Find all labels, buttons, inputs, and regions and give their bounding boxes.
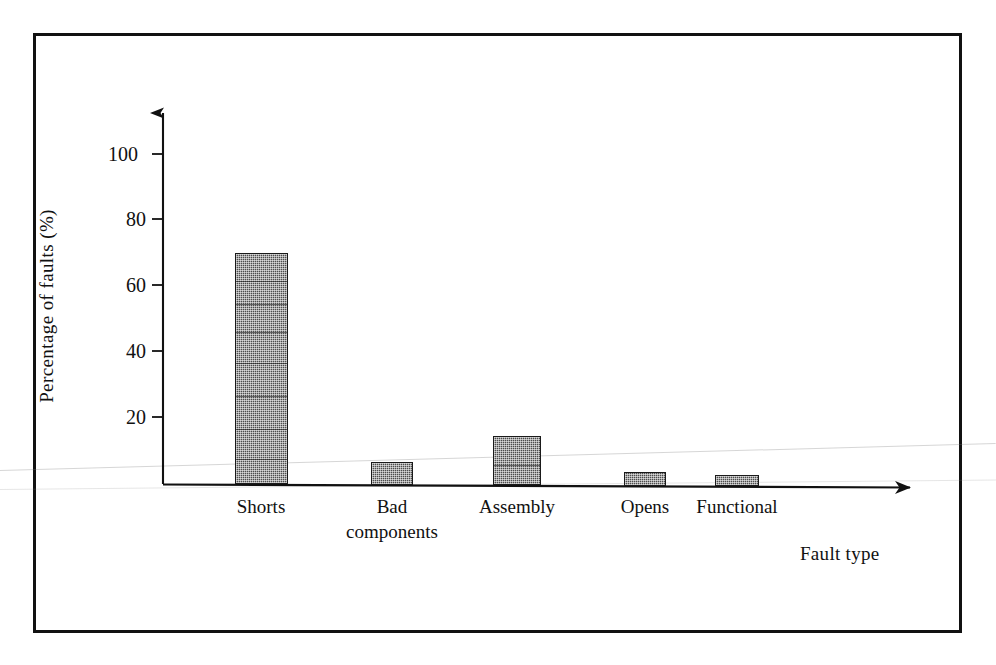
bar-rule	[236, 429, 287, 430]
category-label-assembly: Assembly	[457, 495, 577, 518]
figure-page: Percentage of faults (%) Fault type 20 4…	[0, 0, 996, 665]
bar-rule	[236, 459, 287, 460]
y-tick-label-40: 40	[98, 341, 146, 361]
category-label-bad-components-line1: Bad	[332, 495, 452, 518]
bar-rule	[236, 396, 287, 397]
bar-rule	[236, 304, 287, 305]
bar-opens[interactable]	[624, 472, 666, 486]
y-tick-label-80: 80	[98, 209, 146, 229]
y-axis-title: Percentage of faults (%)	[36, 176, 58, 436]
bar-functional[interactable]	[715, 475, 759, 486]
x-axis-title: Fault type	[800, 543, 880, 565]
bar-rule	[236, 363, 287, 364]
bar-bad-components[interactable]	[371, 462, 413, 485]
category-label-shorts: Shorts	[201, 495, 321, 518]
bar-assembly[interactable]	[493, 436, 541, 485]
y-tick-label-100: 100	[90, 144, 138, 164]
bar-shorts[interactable]	[235, 253, 288, 484]
bar-rule	[236, 281, 287, 282]
y-tick-label-60: 60	[98, 275, 146, 295]
bar-rule	[494, 465, 540, 466]
y-tick-label-20: 20	[98, 407, 146, 427]
category-label-functional: Functional	[677, 495, 797, 518]
bar-rule	[236, 332, 287, 333]
category-label-bad-components-line2: components	[317, 520, 467, 543]
